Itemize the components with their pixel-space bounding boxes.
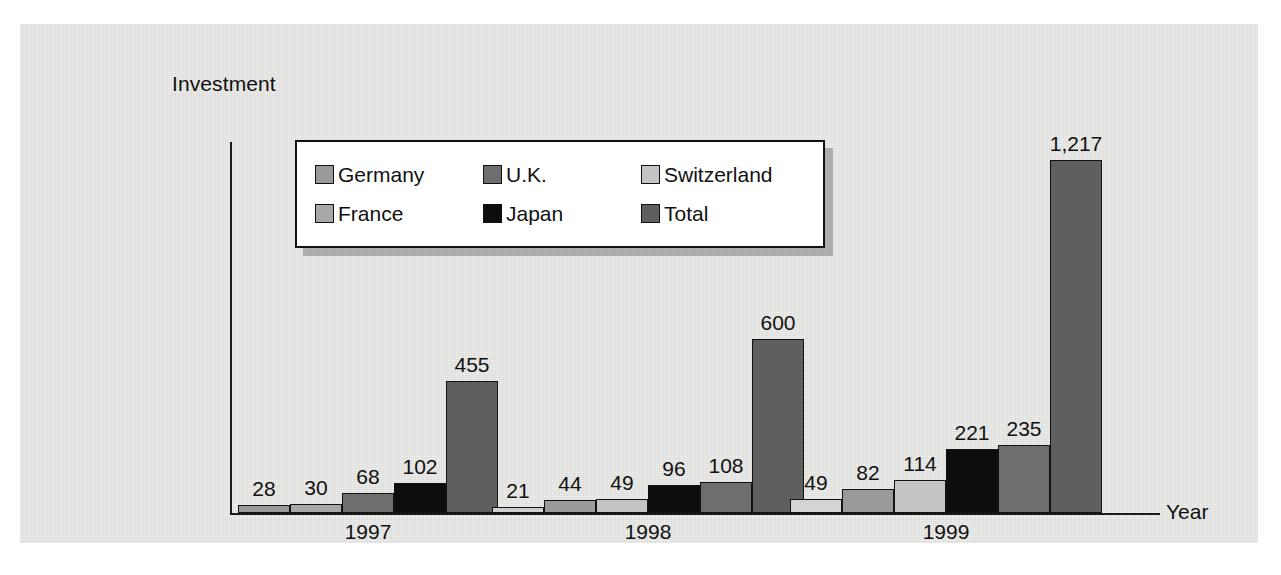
legend-item-germany[interactable]: Germany xyxy=(315,163,483,187)
bar-1997-france[interactable] xyxy=(290,504,342,513)
bar-value-label: 1,217 xyxy=(1050,132,1103,156)
bar-value-label: 68 xyxy=(356,465,379,489)
bar-value-label: 455 xyxy=(454,353,489,377)
legend-grid: GermanyU.K.SwitzerlandFranceJapanTotal xyxy=(315,155,815,233)
bar-group-1999 xyxy=(790,142,1102,513)
legend-item-france[interactable]: France xyxy=(315,202,483,226)
y-axis-title: Investment xyxy=(172,72,276,96)
bar-1997-total[interactable] xyxy=(446,381,498,513)
legend-item-switzerland[interactable]: Switzerland xyxy=(641,163,815,187)
legend-swatch-icon xyxy=(641,165,660,184)
legend-item-uk[interactable]: U.K. xyxy=(483,163,641,187)
bar-value-label: 49 xyxy=(804,471,827,495)
bar-1997-uk[interactable] xyxy=(394,483,446,513)
legend-item-total[interactable]: Total xyxy=(641,202,815,226)
legend-item-japan[interactable]: Japan xyxy=(483,202,641,226)
figure-root: Investment Year 283068102455199721444996… xyxy=(0,0,1281,575)
legend-item-label: Japan xyxy=(506,202,563,226)
legend-item-label: Total xyxy=(664,202,708,226)
bar-value-label: 30 xyxy=(304,476,327,500)
bar-1998-germany[interactable] xyxy=(492,507,544,513)
bar-value-label: 28 xyxy=(252,477,275,501)
chart-panel: Investment Year 283068102455199721444996… xyxy=(20,24,1258,543)
bar-1999-japan[interactable] xyxy=(946,449,998,513)
legend-swatch-icon xyxy=(315,165,334,184)
bar-1998-switzerland[interactable] xyxy=(596,499,648,513)
legend-swatch-icon xyxy=(483,204,502,223)
x-axis-line xyxy=(230,513,1160,515)
bar-value-label: 235 xyxy=(1006,417,1041,441)
legend-item-label: Switzerland xyxy=(664,163,773,187)
bar-value-label: 49 xyxy=(610,471,633,495)
y-axis-line xyxy=(230,142,232,515)
x-tick-label-1997: 1997 xyxy=(345,520,392,544)
bar-value-label: 114 xyxy=(903,452,936,476)
legend-item-label: Germany xyxy=(338,163,424,187)
legend-item-label: U.K. xyxy=(506,163,547,187)
bar-value-label: 108 xyxy=(708,454,743,478)
bar-1997-germany[interactable] xyxy=(238,505,290,513)
bar-1999-france[interactable] xyxy=(842,489,894,513)
bar-1998-france[interactable] xyxy=(544,500,596,513)
x-axis-title: Year xyxy=(1166,500,1208,524)
legend-item-label: France xyxy=(338,202,403,226)
bar-value-label: 44 xyxy=(558,472,581,496)
legend-swatch-icon xyxy=(315,204,334,223)
bar-value-label: 102 xyxy=(402,455,437,479)
bar-1999-uk[interactable] xyxy=(998,445,1050,513)
bar-1997-japan[interactable] xyxy=(342,493,394,513)
bar-1998-uk[interactable] xyxy=(700,482,752,513)
bar-value-label: 96 xyxy=(662,457,685,481)
bar-value-label: 221 xyxy=(954,421,989,445)
chart-legend: GermanyU.K.SwitzerlandFranceJapanTotal xyxy=(295,140,825,248)
x-tick-label-1999: 1999 xyxy=(923,520,970,544)
legend-swatch-icon xyxy=(641,204,660,223)
bar-1998-japan[interactable] xyxy=(648,485,700,513)
bar-1999-germany[interactable] xyxy=(790,499,842,513)
bar-value-label: 21 xyxy=(506,479,529,503)
bar-1999-total[interactable] xyxy=(1050,160,1102,513)
bar-value-label: 82 xyxy=(856,461,879,485)
x-tick-label-1998: 1998 xyxy=(625,520,672,544)
bar-value-label: 600 xyxy=(760,311,795,335)
bar-1999-switzerland[interactable] xyxy=(894,480,946,513)
legend-swatch-icon xyxy=(483,165,502,184)
